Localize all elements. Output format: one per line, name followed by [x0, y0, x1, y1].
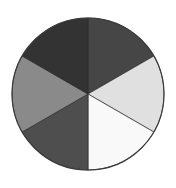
pie-chart-svg — [0, 0, 176, 188]
pie-slice-group — [12, 18, 164, 170]
pie-chart-figure — [0, 0, 176, 188]
